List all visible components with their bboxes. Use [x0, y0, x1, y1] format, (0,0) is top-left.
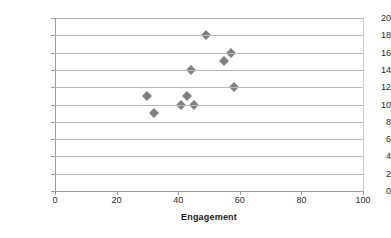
gridline	[55, 156, 363, 157]
gridline	[55, 53, 363, 54]
gridline	[55, 87, 363, 88]
x-tick-label: 40	[158, 196, 198, 205]
x-tick-label: 0	[35, 196, 75, 205]
x-tick-label: 80	[281, 196, 321, 205]
gridline	[55, 35, 363, 36]
scatter-chart: 02468101214161820 020406080100 Assistanc…	[0, 0, 391, 238]
gridline	[55, 105, 363, 106]
x-tick-label: 20	[97, 196, 137, 205]
data-point	[182, 91, 192, 101]
x-tick-label: 60	[220, 196, 260, 205]
x-axis-title: Engagement	[55, 212, 363, 222]
x-tick-label: 100	[343, 196, 383, 205]
data-point	[149, 108, 159, 118]
data-point	[142, 91, 152, 101]
gridline	[55, 122, 363, 123]
data-point	[219, 56, 229, 66]
x-axis-line	[55, 191, 364, 192]
gridline	[55, 174, 363, 175]
gridline	[55, 18, 363, 19]
plot-area	[55, 18, 363, 191]
gridline	[55, 139, 363, 140]
gridline	[55, 70, 363, 71]
